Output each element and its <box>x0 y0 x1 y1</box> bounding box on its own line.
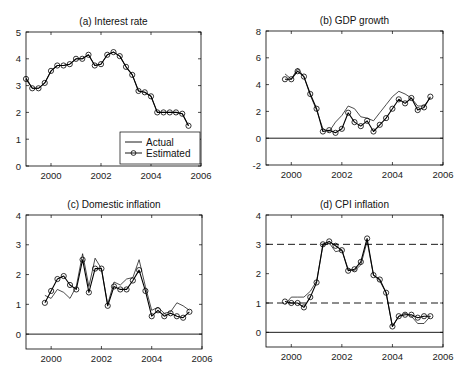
panel-d-cpi-inflation: (d) CPI inflation200020022004200601234 <box>256 199 454 362</box>
legend: ActualEstimated <box>120 132 200 164</box>
y-tick-label: 3 <box>16 80 21 91</box>
y-tick-label: 2 <box>16 269 21 280</box>
y-tick-label: 2 <box>256 106 261 117</box>
series-line-estimated <box>285 71 430 133</box>
x-tick-label: 2006 <box>432 169 453 180</box>
y-tick-label: 0 <box>16 329 21 340</box>
panel-c-domestic-inflation: (c) Domestic inflation200020022004200601… <box>16 199 213 364</box>
x-tick-label: 2004 <box>382 169 403 180</box>
plot-frame <box>266 31 443 165</box>
y-tick-label: -2 <box>253 160 261 171</box>
series-line-estimated <box>45 260 190 318</box>
chart-title: (d) CPI inflation <box>320 199 389 210</box>
y-tick-label: 3 <box>256 239 261 250</box>
y-tick-label: 8 <box>256 26 261 37</box>
y-tick-label: 4 <box>256 210 261 221</box>
y-tick-label: 1 <box>16 299 21 310</box>
x-tick-label: 2000 <box>281 351 302 362</box>
x-tick-label: 2002 <box>331 351 352 362</box>
x-tick-label: 2006 <box>432 351 453 362</box>
y-tick-label: 4 <box>16 53 21 64</box>
x-tick-label: 2004 <box>140 170 161 181</box>
panel-b-gdp-growth: (b) GDP growth2000200220042006-202468 <box>253 15 454 180</box>
series-line-actual <box>45 254 190 314</box>
y-tick-label: 4 <box>16 210 21 221</box>
x-tick-label: 2000 <box>281 169 302 180</box>
series-line-estimated <box>285 239 430 327</box>
x-tick-label: 2000 <box>41 353 62 364</box>
x-tick-label: 2004 <box>141 353 162 364</box>
panel-a-interest-rate: (a) Interest rate2000200220042006012345A… <box>16 16 212 181</box>
y-tick-label: 2 <box>16 107 21 118</box>
x-tick-label: 2006 <box>190 170 211 181</box>
x-tick-label: 2002 <box>90 170 111 181</box>
legend-label-estimated: Estimated <box>146 148 190 159</box>
y-tick-label: 6 <box>256 52 261 63</box>
chart-title: (c) Domestic inflation <box>67 199 160 210</box>
chart-figure: (a) Interest rate2000200220042006012345A… <box>0 0 468 374</box>
y-tick-label: 1 <box>16 134 21 145</box>
x-tick-label: 2004 <box>382 351 403 362</box>
plot-frame <box>266 215 443 347</box>
y-tick-label: 0 <box>256 327 261 338</box>
chart-title: (a) Interest rate <box>79 16 148 27</box>
y-tick-label: 0 <box>16 161 21 172</box>
data-point-estimated <box>42 300 47 305</box>
x-tick-label: 2002 <box>91 353 112 364</box>
legend-label-actual: Actual <box>146 137 174 148</box>
y-tick-label: 3 <box>16 239 21 250</box>
y-tick-label: 2 <box>256 268 261 279</box>
x-tick-label: 2006 <box>191 353 212 364</box>
x-tick-label: 2002 <box>331 169 352 180</box>
y-tick-label: 0 <box>256 133 261 144</box>
x-tick-label: 2000 <box>40 170 61 181</box>
y-tick-label: 1 <box>256 298 261 309</box>
y-tick-label: 4 <box>256 79 261 90</box>
chart-title: (b) GDP growth <box>320 15 389 26</box>
y-tick-label: 5 <box>16 27 21 38</box>
